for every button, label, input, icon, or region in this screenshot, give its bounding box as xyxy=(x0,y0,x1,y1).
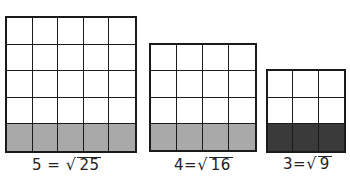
grid-cell xyxy=(268,98,293,125)
grid-cell xyxy=(203,98,229,124)
grid-cell xyxy=(293,98,318,125)
root-value: 4 xyxy=(174,156,184,174)
root-value: 5 xyxy=(32,156,42,174)
grid-cell xyxy=(84,71,110,98)
grid-cell xyxy=(58,71,84,98)
grid-cell xyxy=(58,98,84,125)
radical-icon: √ xyxy=(197,155,208,174)
grid-cell xyxy=(151,98,177,124)
grid-cell xyxy=(229,98,255,124)
grid-cell xyxy=(319,98,344,125)
grid-cell xyxy=(229,45,255,71)
radicand: 16 xyxy=(209,157,233,172)
label-grid-5: 5 = √25 xyxy=(32,155,101,174)
grid-cell xyxy=(293,71,318,98)
radicand: 25 xyxy=(77,157,101,172)
grid-cell xyxy=(151,124,177,150)
grid-cell xyxy=(151,71,177,97)
grid-cell xyxy=(84,18,110,45)
grid-cell xyxy=(7,18,33,45)
grid-cell xyxy=(203,71,229,97)
grid-cell xyxy=(229,124,255,150)
grid-cell xyxy=(58,45,84,72)
grid-cell xyxy=(293,124,318,151)
grid-3 xyxy=(266,69,346,153)
grid-cell xyxy=(109,98,135,125)
grid-cell xyxy=(109,71,135,98)
grid-cell xyxy=(109,124,135,151)
grid-cell xyxy=(109,45,135,72)
grid-cell xyxy=(177,71,203,97)
grid-cell xyxy=(7,45,33,72)
grid-cell xyxy=(109,18,135,45)
label-grid-4: 4=√16 xyxy=(174,155,233,174)
root-value: 3 xyxy=(283,155,293,173)
grid-4 xyxy=(149,43,257,152)
grid-cell xyxy=(319,71,344,98)
equals-sign: = xyxy=(293,155,306,173)
label-grid-3: 3=√9 xyxy=(283,154,332,173)
grid-cell xyxy=(33,71,59,98)
grid-cell xyxy=(33,18,59,45)
grid-cell xyxy=(203,124,229,150)
grid-cell xyxy=(229,71,255,97)
grid-cell xyxy=(7,124,33,151)
grid-cell xyxy=(7,71,33,98)
grid-cell xyxy=(177,98,203,124)
equals-sign: = xyxy=(47,156,60,174)
grid-cell xyxy=(7,98,33,125)
grid-cell xyxy=(177,45,203,71)
grid-cell xyxy=(84,98,110,125)
grid-cell xyxy=(58,18,84,45)
grid-cell xyxy=(33,98,59,125)
grid-cell xyxy=(33,124,59,151)
grid-cell xyxy=(84,45,110,72)
grid-cell xyxy=(151,45,177,71)
grid-cell xyxy=(33,45,59,72)
grid-cell xyxy=(203,45,229,71)
radical-icon: √ xyxy=(306,154,317,173)
grid-5 xyxy=(5,16,137,153)
grid-cell xyxy=(177,124,203,150)
radical-icon: √ xyxy=(66,155,77,174)
radicand: 9 xyxy=(318,156,332,171)
grid-cell xyxy=(319,124,344,151)
grid-cell xyxy=(268,71,293,98)
grid-cell xyxy=(58,124,84,151)
grid-cell xyxy=(268,124,293,151)
equals-sign: = xyxy=(184,156,197,174)
grid-cell xyxy=(84,124,110,151)
